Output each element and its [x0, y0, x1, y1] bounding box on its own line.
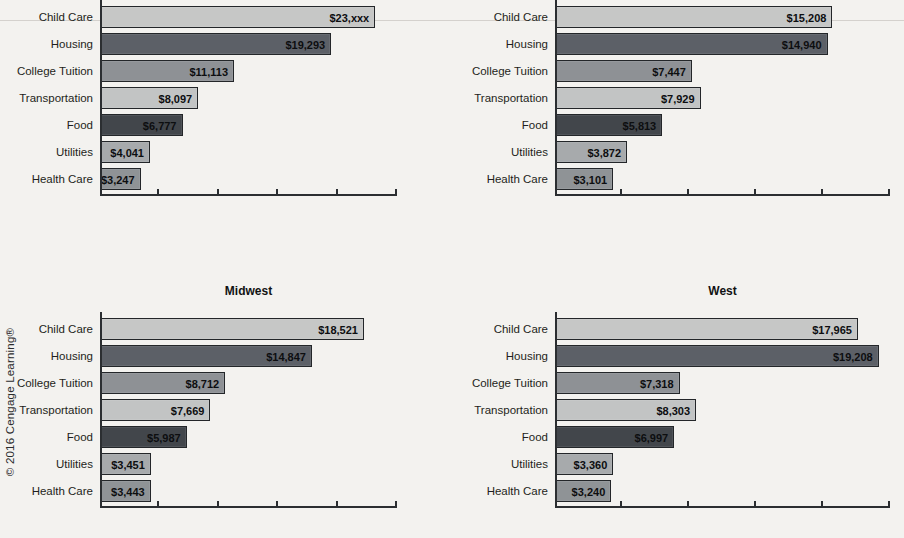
x-axis-line [100, 506, 397, 508]
bar-row: College Tuition$7,318 [452, 372, 890, 394]
category-label: Transportation [452, 92, 555, 104]
bar: $3,451 [100, 453, 151, 475]
bar: $17,965 [555, 318, 858, 340]
category-label: Housing [452, 350, 555, 362]
bar-row: Housing$14,847 [0, 345, 397, 367]
chart-bottom-left: MidwestChild Care$18,521Housing$14,847Co… [0, 282, 397, 508]
bar: $3,443 [100, 480, 151, 502]
bar-row: Transportation$8,303 [452, 399, 890, 421]
value-label: $15,208 [787, 7, 827, 29]
x-axis-tick [336, 501, 338, 508]
bar-track: $11,113 [100, 60, 397, 82]
bar-row: Health Care$3,240 [452, 480, 890, 502]
bar-row: Housing$14,940 [452, 33, 890, 55]
scanned-chart-page: © 2016 Cengage Learning® Child Care$23,x… [0, 0, 904, 538]
category-label: Child Care [0, 323, 100, 335]
x-axis-tick [217, 189, 219, 196]
x-axis-tick [217, 501, 219, 508]
bar-track: $7,447 [555, 60, 890, 82]
category-label: Housing [0, 350, 100, 362]
category-label: College Tuition [0, 377, 100, 389]
x-axis-tick [888, 189, 890, 196]
bar-row: Health Care$3,247 [0, 168, 397, 190]
y-axis-line [555, 312, 557, 508]
x-axis-tick [754, 189, 756, 196]
chart-top-right: Child Care$15,208Housing$14,940College T… [452, 0, 890, 196]
value-label: $6,777 [143, 115, 177, 137]
category-label: Transportation [452, 404, 555, 416]
bar: $6,997 [555, 426, 674, 448]
bar-track: $7,929 [555, 87, 890, 109]
bar-row: Utilities$3,872 [452, 141, 890, 163]
x-axis-tick [620, 189, 622, 196]
bar-row: Food$6,777 [0, 114, 397, 136]
bar-track: $8,303 [555, 399, 890, 421]
bar: $15,208 [555, 6, 832, 28]
bar-row: Child Care$17,965 [452, 318, 890, 340]
bar-track: $15,208 [555, 6, 890, 28]
bar-row: College Tuition$7,447 [452, 60, 890, 82]
value-label: $7,318 [640, 373, 674, 395]
value-label: $17,965 [812, 319, 852, 341]
value-label: $3,101 [573, 169, 607, 191]
plot-area: Child Care$18,521Housing$14,847College T… [0, 312, 397, 508]
bar-track: $5,987 [100, 426, 397, 448]
bar-track: $19,208 [555, 345, 890, 367]
bar-track: $3,101 [555, 168, 890, 190]
plot-area: Child Care$15,208Housing$14,940College T… [452, 0, 890, 196]
bar: $7,318 [555, 372, 680, 394]
category-label: Transportation [0, 92, 100, 104]
category-label: College Tuition [452, 377, 555, 389]
bar-row: Housing$19,208 [452, 345, 890, 367]
category-label: Health Care [452, 485, 555, 497]
category-label: Child Care [0, 11, 100, 23]
category-label: Child Care [452, 323, 555, 335]
value-label: $7,929 [661, 88, 695, 110]
value-label: $19,293 [285, 34, 325, 56]
category-label: Utilities [452, 146, 555, 158]
x-axis-line [100, 194, 397, 196]
bar: $5,987 [100, 426, 187, 448]
bar-row: Health Care$3,443 [0, 480, 397, 502]
x-axis-tick [754, 501, 756, 508]
x-axis-tick [157, 189, 159, 196]
value-label: $5,987 [147, 427, 181, 449]
value-label: $3,360 [574, 454, 608, 476]
bar-row: Child Care$23,xxx [0, 6, 397, 28]
category-label: Utilities [452, 458, 555, 470]
bar: $18,521 [100, 318, 364, 340]
bar-track: $19,293 [100, 33, 397, 55]
bar: $14,940 [555, 33, 828, 55]
bar: $7,929 [555, 87, 701, 109]
chart-title: Midwest [100, 282, 397, 300]
x-axis-tick [276, 501, 278, 508]
y-axis-line [100, 0, 102, 196]
value-label: $4,041 [110, 142, 144, 164]
bar-track: $3,240 [555, 480, 890, 502]
bar: $8,303 [555, 399, 696, 421]
bar-track: $3,247 [100, 168, 397, 190]
value-label: $3,240 [572, 481, 606, 503]
category-label: Transportation [0, 404, 100, 416]
value-label: $3,247 [101, 169, 135, 191]
category-label: Food [0, 119, 100, 131]
bar-row: Food$5,813 [452, 114, 890, 136]
bar: $4,041 [100, 141, 150, 163]
value-label: $7,447 [652, 61, 686, 83]
category-label: Utilities [0, 458, 100, 470]
x-axis-tick [620, 501, 622, 508]
value-label: $8,712 [186, 373, 220, 395]
bar: $23,xxx [100, 6, 375, 28]
x-axis-tick [276, 189, 278, 196]
bar-track: $4,041 [100, 141, 397, 163]
value-label: $3,872 [587, 142, 621, 164]
x-axis-tick [157, 501, 159, 508]
x-axis-tick [395, 501, 397, 508]
category-label: Food [452, 431, 555, 443]
category-label: Utilities [0, 146, 100, 158]
bar: $5,813 [555, 114, 662, 136]
category-label: College Tuition [0, 65, 100, 77]
bar-row: Utilities$3,451 [0, 453, 397, 475]
bar-track: $8,097 [100, 87, 397, 109]
bar-row: Child Care$15,208 [452, 6, 890, 28]
